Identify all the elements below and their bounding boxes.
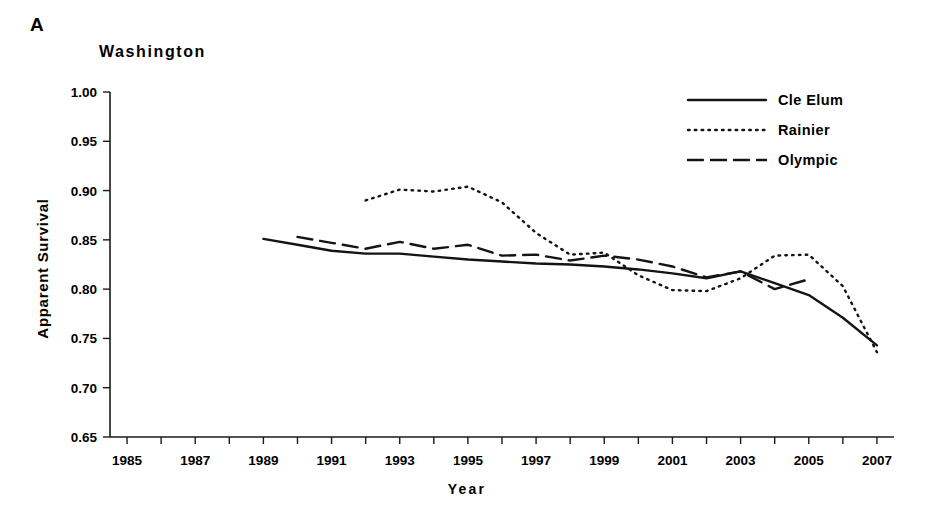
y-axis: 0.650.700.750.800.850.900.951.00 (71, 85, 110, 445)
data-series-group (263, 187, 877, 353)
chart-title: Washington (99, 43, 206, 61)
x-tick-label: 1993 (385, 453, 416, 468)
x-tick-label: 2001 (657, 453, 688, 468)
y-axis-label: Apparent Survival (34, 159, 51, 379)
x-tick-label: 2005 (794, 453, 825, 468)
x-axis-label: Year (0, 481, 934, 497)
panel-letter: A (30, 14, 44, 36)
y-tick-label: 0.75 (71, 331, 98, 346)
x-tick-label: 1997 (521, 453, 551, 468)
line-chart-plot: 0.650.700.750.800.850.900.951.00 1985198… (0, 0, 934, 522)
figure-panel: A Washington Apparent Survival Year 0.65… (0, 0, 934, 522)
x-tick-label: 2007 (862, 453, 892, 468)
x-axis: 1985198719891991199319951997199920012003… (110, 437, 894, 468)
legend-label-olympic: Olympic (778, 152, 838, 168)
y-tick-label: 0.65 (71, 430, 98, 445)
x-tick-label: 1995 (453, 453, 484, 468)
x-tick-label: 1989 (248, 453, 278, 468)
y-tick-label: 0.70 (71, 381, 97, 396)
y-tick-label: 0.90 (71, 184, 97, 199)
x-tick-label: 1987 (180, 453, 210, 468)
x-tick-label: 1985 (112, 453, 143, 468)
legend-label-rainier: Rainier (778, 122, 830, 138)
y-tick-label: 1.00 (71, 85, 97, 100)
y-tick-label: 0.95 (71, 134, 98, 149)
y-tick-label: 0.80 (71, 282, 97, 297)
chart-legend: Cle ElumRainierOlympic (688, 92, 843, 168)
y-tick-label: 0.85 (71, 233, 98, 248)
x-tick-label: 1991 (317, 453, 348, 468)
x-tick-label: 1999 (589, 453, 619, 468)
x-tick-label: 2003 (726, 453, 757, 468)
legend-label-cle-elum: Cle Elum (778, 92, 843, 108)
series-line-rainier (366, 187, 877, 353)
